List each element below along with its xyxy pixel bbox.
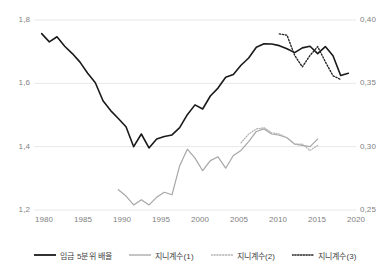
- x-axis-tick-label: 2005: [224, 215, 254, 224]
- dotted-black-line-icon: [292, 251, 314, 259]
- gridlines: [34, 20, 356, 210]
- x-axis-tick-label: 1985: [68, 215, 98, 224]
- x-axis-tick-label: 2020: [341, 215, 371, 224]
- x-axis-tick-label: 1990: [107, 215, 137, 224]
- legend-item-0: 임금 5분위 배율: [34, 250, 112, 261]
- y-axis-right-tick-label: 0,25: [360, 205, 390, 214]
- solid-black-line-icon: [34, 251, 56, 259]
- y-axis-left-tick-label: 1,8: [2, 15, 30, 24]
- series-line-3: [279, 34, 340, 80]
- legend-label: 지니계수(1): [155, 250, 193, 261]
- y-axis-left-tick-label: 1,4: [2, 142, 30, 151]
- legend-item-3: 지니계수(3): [292, 250, 356, 261]
- legend-label: 임금 5분위 배율: [60, 250, 112, 261]
- x-axis-tick-label: 2015: [302, 215, 332, 224]
- y-axis-left-tick-label: 1,6: [2, 78, 30, 87]
- legend-item-2: 지니계수(2): [211, 250, 275, 261]
- chart-legend: 임금 5분위 배율 지니계수(1) 지니계수(2) 지니계수(3): [0, 243, 391, 267]
- x-axis-tick-label: 2000: [185, 215, 215, 224]
- legend-label: 지니계수(3): [318, 250, 356, 261]
- y-axis-right-tick-label: 0,30: [360, 142, 390, 151]
- plot-svg: [34, 20, 356, 210]
- dotted-lightgray-line-icon: [211, 251, 233, 259]
- line-chart: 1,8 1,6 1,4 1,2 0,40 0,35 0,30 0,25 1980…: [0, 0, 391, 269]
- legend-label: 지니계수(2): [237, 250, 275, 261]
- y-axis-left-tick-label: 1,2: [2, 205, 30, 214]
- solid-gray-line-icon: [129, 251, 151, 259]
- x-axis-tick-label: 2010: [263, 215, 293, 224]
- legend-item-1: 지니계수(1): [129, 250, 193, 261]
- x-axis-tick-label: 1980: [29, 215, 59, 224]
- plot-area: [34, 20, 356, 210]
- y-axis-right-tick-label: 0,35: [360, 78, 390, 87]
- y-axis-right-tick-label: 0,40: [360, 15, 390, 24]
- series-line-0: [42, 34, 349, 148]
- series-line-1: [118, 129, 317, 205]
- series-lines: [42, 34, 349, 205]
- x-axis-tick-label: 1995: [146, 215, 176, 224]
